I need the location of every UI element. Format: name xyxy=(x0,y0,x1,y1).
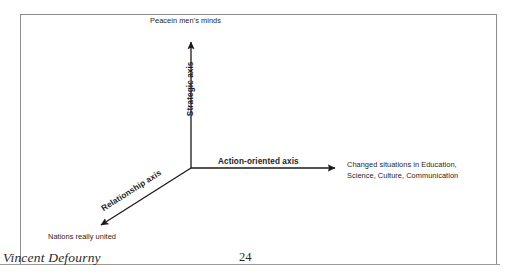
endpoint-label-line-1: Changed situations in Education, xyxy=(347,160,457,169)
page-frame xyxy=(20,14,497,265)
endpoint-label-line-2: Science, Culture, Communication xyxy=(347,171,458,180)
page-number: 24 xyxy=(239,250,252,265)
relationship-axis-endpoint-label: Nations really united xyxy=(48,232,116,242)
footer-author: Vincent Defourny xyxy=(3,250,101,266)
strategic-axis-endpoint-label: Peacein men's minds xyxy=(150,16,221,26)
action-oriented-axis-caption: Action-oriented axis xyxy=(218,157,299,167)
strategic-axis-caption: Strategic axis xyxy=(186,61,196,116)
action-oriented-axis-endpoint-label: Changed situations in Education,Science,… xyxy=(347,160,487,181)
